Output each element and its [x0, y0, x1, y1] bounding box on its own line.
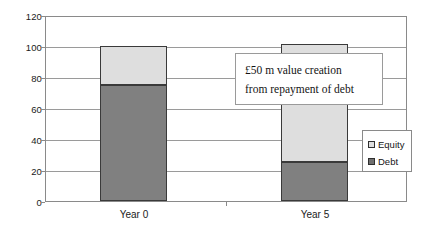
- y-tick-label-0: 0: [8, 198, 42, 208]
- y-tick-label-20: 20: [8, 167, 42, 177]
- y-tick-label-60: 60: [8, 105, 42, 115]
- annotation-line-1: £50 m value creation: [245, 61, 382, 80]
- legend-swatch-equity-icon: [368, 141, 375, 148]
- chart-legend: Equity Debt: [362, 130, 412, 172]
- y-tick-label-40: 40: [8, 136, 42, 146]
- y-tick-label-120: 120: [8, 12, 42, 22]
- y-tick-mark-0: [41, 202, 45, 203]
- stacked-bar-chart: 120 100 80 60 40 20 0 Year: [0, 0, 441, 227]
- legend-item-debt[interactable]: Debt: [368, 154, 411, 169]
- bar-segment-debt-year-5[interactable]: [281, 162, 348, 201]
- legend-label-debt: Debt: [378, 157, 398, 167]
- legend-swatch-debt-icon: [368, 158, 375, 165]
- bar-segment-equity-year-0[interactable]: [100, 46, 167, 85]
- x-tick-mark-center: [226, 202, 227, 206]
- y-tick-label-80: 80: [8, 74, 42, 84]
- bar-segment-debt-year-0[interactable]: [100, 85, 167, 201]
- legend-item-equity[interactable]: Equity: [368, 137, 411, 152]
- x-tick-label-year-5: Year 5: [275, 210, 355, 220]
- value-creation-annotation: £50 m value creation from repayment of d…: [235, 53, 383, 105]
- annotation-line-2: from repayment of debt: [245, 80, 382, 99]
- legend-label-equity: Equity: [378, 140, 404, 150]
- plot-area: [45, 16, 407, 202]
- x-tick-label-year-0: Year 0: [94, 210, 174, 220]
- bar-stack-year-0[interactable]: [100, 46, 167, 201]
- y-tick-label-100: 100: [8, 43, 42, 53]
